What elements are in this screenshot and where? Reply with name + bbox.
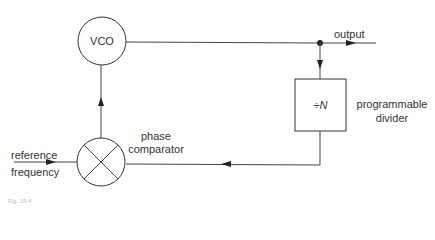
vco-input-arrow-icon bbox=[98, 97, 104, 106]
divider-caption-2: divider bbox=[352, 112, 432, 124]
divider-input-arrow-icon bbox=[317, 60, 323, 69]
divider-caption-1: programmable bbox=[352, 98, 432, 110]
vco-label: VCO bbox=[87, 35, 117, 47]
output-label: output bbox=[334, 28, 365, 40]
comparator-caption-1: phase bbox=[126, 130, 186, 142]
figure-caption: Fig. 15.4 bbox=[8, 198, 31, 204]
vco-output-line bbox=[126, 42, 320, 43]
comparator-caption-2: comparator bbox=[126, 143, 186, 155]
feedback-arrow-icon bbox=[221, 161, 231, 167]
reference-label-1: reference bbox=[11, 149, 57, 161]
divider-label: ÷N bbox=[295, 99, 346, 111]
reference-label-2: frequency bbox=[11, 166, 59, 178]
output-arrow-icon bbox=[346, 40, 356, 46]
